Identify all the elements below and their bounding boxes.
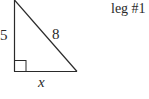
right-angle-marker <box>15 61 27 72</box>
caption-leg-1: leg #1 <box>111 2 146 16</box>
vertical-leg-label: 5 <box>0 28 8 43</box>
hypotenuse-label: 8 <box>52 27 60 42</box>
horizontal-leg-label: x <box>38 75 45 90</box>
